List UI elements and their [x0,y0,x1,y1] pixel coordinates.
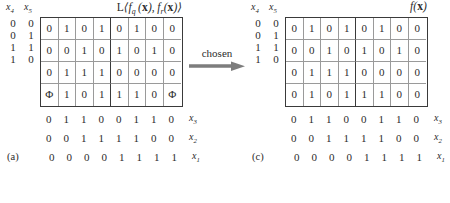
cell: 0 [76,84,94,106]
cell: 0 [374,62,392,84]
cell: 0 [111,18,129,40]
cell: 1 [304,62,322,84]
axis-value: 0 [40,132,58,144]
cell: 1 [374,18,392,40]
row-label-x5: 1 [267,41,285,53]
cell: 1 [356,84,374,106]
axis-value: 1 [166,151,184,163]
axis-value: 1 [376,151,394,163]
axis-value: 0 [145,132,163,144]
cell: 0 [391,84,409,106]
cell: 1 [76,62,94,84]
row-label-x4: 1 [249,53,267,65]
panel-c-x4-header: x4 [251,1,259,14]
axis-name-x3: x3 [183,112,197,125]
cell: 0 [409,40,427,62]
row-label-pair: 0 1 [249,29,285,41]
axis-value: 0 [288,151,306,163]
axis-value: 0 [78,151,96,163]
cell: 0 [146,62,164,84]
panel-c: x4 x5 f(x) 0 0 0 1 1 1 1 0 [249,0,445,166]
panel-a: x4 x5 L⟨fq (x), fr(x)⟩ 0 0 0 1 1 1 1 [4,0,200,166]
cell: 1 [129,18,147,40]
axis-value: 1 [320,132,338,144]
cell: 0 [409,18,427,40]
axis-value: 1 [110,132,128,144]
row-label-x4: 0 [4,17,22,29]
cell: 0 [164,40,182,62]
axis-row-x2: 0 0 1 1 1 1 0 0 x2 [249,128,445,147]
panel-c-row-labels: 0 0 0 1 1 1 1 0 [249,17,285,65]
cell: 0 [41,40,59,62]
panel-c-table: 0 0 0 1 1 1 1 0 0 1 [249,17,445,107]
cell: 0 [129,40,147,62]
row-label-pair: 1 1 [4,41,40,53]
axis-value: 1 [75,132,93,144]
axis-row-x3: 0 1 1 0 0 1 1 0 x3 [249,109,445,128]
axis-value: 0 [355,113,373,125]
cell: 1 [94,18,112,40]
row-label-x4: 0 [249,29,267,41]
table-row: 0 0 1 0 1 0 1 0 [286,40,427,62]
cell: 1 [129,84,147,106]
axis-value: 0 [93,113,111,125]
row-label-x5: 1 [22,29,40,41]
panel-a-function-label: L⟨fq (x), fr(x)⟩ [117,0,182,16]
cell: 0 [111,62,129,84]
table-row: 0 1 0 1 0 1 0 0 [286,18,427,40]
cell: 0 [286,18,304,40]
axis-value: 1 [148,151,166,163]
transition-label: chosen [186,47,248,60]
axis-value: 0 [303,132,321,144]
table-row: 0 1 0 1 1 1 0 0 [286,84,427,106]
axis-row-x1: (a) 0 0 0 0 1 1 1 1 x1 [4,147,200,166]
axis-values: 0 0 1 1 1 1 0 0 [285,132,428,144]
cell: 1 [339,84,357,106]
axis-values: 0 0 0 0 1 1 1 1 [288,151,431,163]
axis-value: 1 [303,113,321,125]
axis-value: 0 [323,151,341,163]
axis-value: 1 [128,132,146,144]
cell: 0 [286,62,304,84]
cell: 0 [76,18,94,40]
row-label-x5: 1 [22,41,40,53]
panel-a-row-labels: 0 0 0 1 1 1 1 0 [4,17,40,65]
axis-values: 0 1 1 0 0 1 1 0 [285,113,428,125]
cell: 1 [356,40,374,62]
row-label-pair: 0 1 [4,29,40,41]
row-label-pair: 1 0 [249,53,285,65]
row-label-x5: 0 [267,17,285,29]
table-row: 0 1 0 1 0 1 0 0 [41,18,182,40]
right-arrow-icon [188,61,246,73]
axis-value: 1 [128,113,146,125]
axis-value: 1 [358,151,376,163]
axis-value: 1 [58,113,76,125]
axis-value: 0 [61,151,79,163]
axis-value: 1 [338,132,356,144]
cell: 0 [164,18,182,40]
cell: 1 [321,40,339,62]
panel-a-caption: (a) [4,151,43,162]
cell: 1 [94,84,112,106]
cell: 0 [374,40,392,62]
axis-name-x2: x2 [183,131,197,144]
axis-name-x1: x1 [431,150,445,163]
cell: 1 [339,18,357,40]
cell: 0 [321,18,339,40]
cell: 0 [41,62,59,84]
panel-c-header: x4 x5 f(x) [249,0,429,17]
cell: 0 [391,18,409,40]
axis-values: 0 1 1 0 0 1 1 0 [40,113,183,125]
axis-value: 0 [58,132,76,144]
panel-c-grid: 0 1 0 1 0 1 0 0 0 0 1 0 1 0 1 0 [285,17,428,107]
axis-value: 1 [93,132,111,144]
cell: Φ [164,84,182,106]
cell: 0 [409,62,427,84]
row-label-pair: 1 0 [4,53,40,65]
row-label-pair: 1 1 [249,41,285,53]
axis-value: 0 [341,151,359,163]
axis-value: 1 [390,113,408,125]
cell: 1 [321,62,339,84]
panel-a-table: 0 0 0 1 1 1 1 0 0 1 [4,17,200,107]
cell: 1 [59,62,77,84]
